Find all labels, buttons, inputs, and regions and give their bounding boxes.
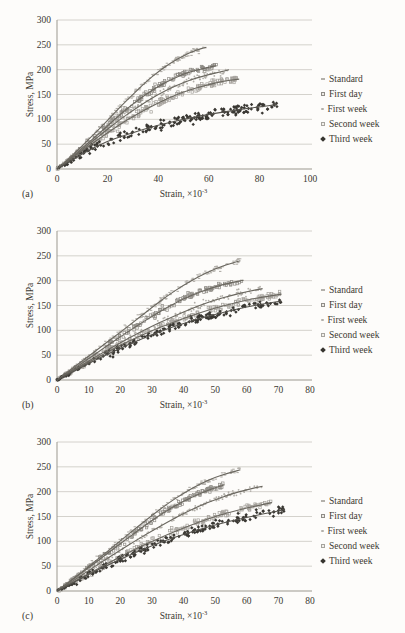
y-tick-label: 100 <box>37 325 52 335</box>
scatter-point <box>255 511 258 514</box>
legend-label-second-week: Second week <box>329 119 379 129</box>
y-tick-label: 300 <box>37 226 52 236</box>
scatter-point <box>228 298 230 300</box>
x-tick-label: 20 <box>116 596 126 606</box>
legend-a: Standard First day First week Second wee… <box>321 74 379 144</box>
y-tick-label: 0 <box>46 586 51 596</box>
scatter-point <box>233 495 235 497</box>
x-tick-label: 60 <box>242 385 252 395</box>
legend-label-second-week: Second week <box>329 330 379 340</box>
scatter-point <box>255 508 258 511</box>
scatter-point <box>197 51 199 52</box>
series-points-second-week <box>58 290 281 380</box>
scatter-point <box>250 490 252 492</box>
scatter-point <box>231 469 233 470</box>
standard-marker-icon <box>321 500 325 502</box>
legend-item-second-week: Second week <box>321 541 379 551</box>
scatter-point <box>150 305 152 306</box>
scatter-point <box>171 526 173 528</box>
scatter-point <box>111 355 114 358</box>
scatter-point <box>176 532 178 534</box>
scatter-point <box>177 291 179 292</box>
scatter-point <box>212 71 214 73</box>
legend-b: Standard First day First week Second wee… <box>321 285 379 355</box>
x-tick-label: 10 <box>84 385 94 395</box>
scatter-point <box>116 342 118 344</box>
scatter-point <box>124 330 126 331</box>
scatter-point <box>186 280 188 281</box>
scatter-point <box>204 484 206 485</box>
scatter-point <box>181 84 183 86</box>
scatter-point <box>159 297 161 298</box>
x-tick-label: 60 <box>204 174 214 184</box>
legend-item-third-week: Third week <box>321 556 379 566</box>
scatter-point <box>213 75 215 77</box>
scatter-point <box>163 92 165 94</box>
legend-item-first-week: First week <box>321 526 379 536</box>
scatter-point <box>186 79 188 81</box>
legend-label-standard: Standard <box>329 496 363 506</box>
panel-label-a: (a) <box>22 188 33 199</box>
scatter-point <box>186 83 188 85</box>
scatter-point <box>188 487 190 488</box>
scatter-point <box>149 101 151 103</box>
scatter-point <box>202 299 204 301</box>
scatter-point <box>233 264 235 265</box>
x-tick-label: 40 <box>153 174 163 184</box>
legend-item-standard: Standard <box>321 496 379 506</box>
first-day-marker-icon <box>321 303 325 307</box>
scatter-point <box>192 278 194 279</box>
scatter-point <box>167 315 169 317</box>
scatter-point <box>218 519 221 522</box>
scatter-point <box>89 563 91 564</box>
scatter-point <box>254 306 257 309</box>
scatter-point <box>124 113 126 115</box>
scatter-point <box>126 122 128 124</box>
scatter-point <box>111 557 113 559</box>
scatter-point <box>228 491 230 493</box>
scatter-point <box>146 308 148 309</box>
x-tick-label: 100 <box>303 174 318 184</box>
scatter-point <box>190 55 192 56</box>
scatter-point <box>88 152 91 155</box>
scatter-point <box>119 139 122 142</box>
x-tick-label: 50 <box>210 385 220 395</box>
scatter-point <box>133 546 135 548</box>
first-day-marker-icon <box>321 514 325 518</box>
scatter-point <box>160 71 162 72</box>
scatter-point <box>236 494 238 496</box>
series-points-second-week <box>57 76 238 170</box>
scatter-point <box>116 112 118 113</box>
scatter-point <box>157 69 159 70</box>
series-trend-line-third-week <box>57 104 277 169</box>
y-tick-label: 150 <box>37 90 52 100</box>
scatter-point <box>232 261 234 262</box>
series-trend-line-second-week <box>57 503 272 591</box>
scatter-point <box>170 290 172 291</box>
scatter-point <box>220 75 222 77</box>
scatter-point <box>202 77 204 79</box>
scatter-point <box>154 306 156 307</box>
scatter-point <box>193 281 195 282</box>
standard-marker-icon <box>321 289 325 291</box>
scatter-point <box>236 512 239 515</box>
scatter-point <box>133 106 135 108</box>
scatter-point <box>213 270 215 271</box>
scatter-point <box>99 554 101 555</box>
x-tick-label: 70 <box>274 385 284 395</box>
scatter-point <box>194 505 196 507</box>
scatter-point <box>176 61 178 62</box>
scatter-point <box>160 95 162 97</box>
y-tick-label: 50 <box>42 350 52 360</box>
scatter-point <box>200 480 202 481</box>
scatter-point <box>199 508 201 510</box>
scatter-point <box>204 479 206 480</box>
scatter-point <box>208 481 210 482</box>
scatter-point <box>134 126 137 129</box>
scatter-point <box>198 75 200 77</box>
x-tick-label: 20 <box>103 174 113 184</box>
scatter-point <box>159 90 161 92</box>
scatter-point <box>190 50 192 51</box>
scatter-point <box>194 302 196 304</box>
scatter-point <box>161 526 163 528</box>
